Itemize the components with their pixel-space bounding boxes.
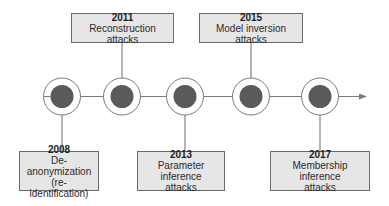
timeline-node-2011: [104, 78, 141, 115]
event-year: 2017: [309, 149, 331, 160]
event-label-line2: attacks: [165, 182, 197, 193]
event-label: De-anonymization: [22, 155, 96, 177]
timeline-diagram: 2011 Reconstruction attacks 2015 Model i…: [0, 0, 389, 206]
event-label-line2: attacks: [304, 182, 336, 193]
event-box-2015: 2015 Model inversion attacks: [199, 13, 303, 43]
timeline-node-2015: [233, 78, 270, 115]
timeline-node-2017: [302, 78, 339, 115]
event-label: Membership inference: [273, 160, 367, 182]
timeline-node-2013: [167, 78, 204, 115]
event-year: 2013: [170, 149, 192, 160]
event-box-2011: 2011 Reconstruction attacks: [71, 13, 174, 43]
event-year: 2011: [112, 12, 134, 23]
event-box-2008: 2008 De-anonymization (re-identification…: [19, 151, 99, 191]
event-box-2017: 2017 Membership inference attacks: [270, 151, 370, 191]
event-box-2013: 2013 Parameter inference attacks: [137, 151, 225, 191]
event-label: Parameter inference: [140, 160, 222, 182]
event-year: 2008: [48, 144, 70, 155]
event-label: Reconstruction attacks: [74, 23, 171, 45]
event-label-line2: (re-identification): [22, 177, 96, 199]
event-label: Model inversion attacks: [202, 23, 300, 45]
event-year: 2015: [240, 12, 262, 23]
